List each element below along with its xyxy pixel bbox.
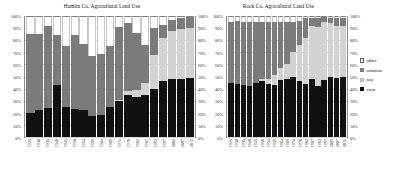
bar-segment-other	[150, 16, 158, 28]
x-tick-label: 1987	[310, 139, 315, 147]
bar-segment-rotation	[106, 46, 114, 107]
stacked-bar	[315, 16, 321, 137]
y-axis-left-hamlin: 100%90%80%70%60%50%40%30%20%10%0%	[0, 16, 22, 138]
x-tick: 1940	[52, 139, 60, 169]
bar-segment-corn	[88, 116, 96, 137]
y-tick-label: 20%	[350, 111, 358, 116]
bar-segment-rotation	[290, 22, 296, 52]
bar-segment-rotation	[228, 22, 234, 83]
stacked-bar	[177, 16, 185, 137]
chart-panel-rock: Rock Co. Agricultural Land Use 100%90%80…	[206, 0, 351, 169]
bar-segment-corn	[235, 84, 241, 137]
x-axis-rock: 1925193019351940194519501954195919641969…	[226, 139, 348, 169]
x-tick-label: 1954	[266, 139, 271, 147]
x-tick: 1954	[79, 139, 87, 169]
y-tick-label: 30%	[215, 99, 223, 104]
y-tick-label: 0%	[15, 136, 21, 141]
bar-segment-corn	[177, 79, 185, 137]
bar-segment-soy	[284, 64, 290, 79]
plot-area-rock	[226, 16, 348, 138]
bar-segment-corn	[44, 108, 52, 137]
bar-segment-other	[79, 16, 87, 44]
bar-segment-corn	[259, 81, 265, 137]
x-tick-label: 1969	[284, 139, 289, 147]
bar-segment-rotation	[97, 54, 105, 116]
bar-segment-corn	[334, 78, 340, 137]
x-tick: 2007	[335, 139, 341, 169]
bar-segment-soy	[328, 23, 334, 76]
bar-segment-rotation	[71, 35, 79, 109]
stacked-bar	[228, 16, 234, 137]
bar-segment-corn	[340, 77, 346, 138]
legend-label: corn	[366, 87, 375, 92]
bar-segment-rotation	[340, 18, 346, 25]
bar-segment-corn	[124, 95, 132, 137]
x-tick: 1969	[284, 139, 290, 169]
bar-segment-soy	[315, 27, 321, 86]
bar-segment-corn	[106, 107, 114, 137]
y-tick-label: 20%	[13, 111, 21, 116]
stacked-bar	[106, 16, 114, 137]
bar-segment-corn	[253, 83, 259, 137]
x-tick-label: 2002	[329, 139, 334, 147]
bar-segment-corn	[297, 81, 303, 137]
x-tick: 1930	[34, 139, 42, 169]
y-tick-label: 40%	[350, 87, 358, 92]
x-tick: 1992	[151, 139, 159, 169]
x-tick: 1950	[70, 139, 78, 169]
bar-segment-rotation	[168, 20, 176, 31]
stacked-bar	[26, 16, 34, 137]
y-tick-label: 70%	[350, 50, 358, 55]
x-tick: 1978	[124, 139, 132, 169]
x-tick-label: 1945	[63, 139, 68, 147]
legend-item-rotation: rotation	[360, 68, 416, 73]
y-tick-label: 100%	[213, 14, 223, 19]
bar-segment-corn	[315, 86, 321, 137]
x-tick-label: 1974	[117, 139, 122, 147]
x-tick: 1930	[234, 139, 240, 169]
bar-segment-rotation	[303, 18, 309, 37]
bar-segment-soy	[321, 22, 327, 80]
bar-segment-other	[132, 16, 140, 33]
bar-segment-soy	[278, 68, 284, 80]
bar-segment-soy	[290, 52, 296, 76]
x-tick-label: 1982	[303, 139, 308, 147]
stacked-bar	[247, 16, 253, 137]
stacked-bar	[168, 16, 176, 137]
stacked-bar	[53, 16, 61, 137]
x-tick-label: 1935	[240, 139, 245, 147]
stacked-bar	[241, 16, 247, 137]
x-tick-label: 1940	[54, 139, 59, 147]
stacked-bar	[284, 16, 290, 137]
x-tick: 1997	[160, 139, 168, 169]
bar-segment-corn	[132, 97, 140, 137]
bar-segment-corn	[115, 101, 123, 137]
x-tick: 1978	[297, 139, 303, 169]
bar-segment-rotation	[88, 56, 96, 117]
y-tick-label: 40%	[215, 87, 223, 92]
x-tick: 2012	[341, 139, 347, 169]
y-tick-label: 60%	[215, 62, 223, 67]
bar-segment-soy	[168, 31, 176, 79]
x-tick: 1935	[43, 139, 51, 169]
bar-segment-other	[106, 16, 114, 46]
x-tick: 2012	[187, 139, 195, 169]
plot-area-hamlin	[24, 16, 196, 138]
y-tick-label: 0%	[217, 136, 223, 141]
bar-segment-rotation	[53, 35, 61, 85]
bars-container-rock	[226, 16, 348, 138]
bar-segment-rotation	[159, 25, 167, 38]
bar-segment-rotation	[235, 21, 241, 84]
x-tick: 1982	[133, 139, 141, 169]
bar-segment-corn	[159, 81, 167, 137]
x-tick-label: 1982	[134, 139, 139, 147]
stacked-bar	[253, 16, 259, 137]
x-tick: 1925	[227, 139, 233, 169]
legend-swatch-other-icon	[360, 58, 364, 62]
bar-segment-rotation	[150, 28, 158, 55]
x-tick-label: 1959	[272, 139, 277, 147]
y-tick-label: 20%	[215, 111, 223, 116]
bar-segment-corn	[228, 83, 234, 137]
bar-segment-rotation	[278, 22, 284, 68]
stacked-bar	[79, 16, 87, 137]
